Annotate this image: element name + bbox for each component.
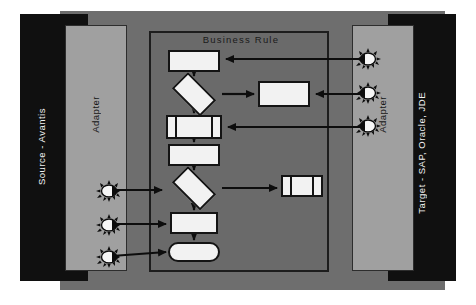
flow-node-decision-2[interactable] [166,172,222,204]
starburst-icon[interactable] [355,115,381,137]
flow-node-process-1[interactable] [168,50,220,72]
flow-node-terminator[interactable] [168,242,220,262]
target-system-label: Target - SAP, Oracle, JDE [416,92,427,214]
starburst-icon[interactable] [355,82,381,104]
flow-node-decision-1[interactable] [166,78,222,110]
flow-node-side-process[interactable] [258,81,310,107]
flow-node-side-predefined-process[interactable] [281,175,323,197]
starburst-icon[interactable] [96,246,122,268]
starburst-icon[interactable] [355,48,381,70]
diagram-canvas: Source - Avantis Adapter Adapter Target … [0,0,476,305]
starburst-icon[interactable] [96,180,122,202]
flow-node-predefined-process[interactable] [166,115,222,139]
source-adapter-label: Adapter [90,96,101,133]
flow-node-process-2[interactable] [168,144,220,166]
business-rule-title: Business Rule [186,34,296,45]
starburst-icon[interactable] [96,214,122,236]
flow-node-process-3[interactable] [170,212,218,234]
source-system-label: Source - Avantis [36,108,47,185]
